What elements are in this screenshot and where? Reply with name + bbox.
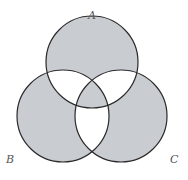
label-b: B [5, 153, 14, 166]
label-a: A [87, 9, 96, 22]
label-c: C [170, 153, 179, 166]
venn-diagram: A B C [0, 0, 188, 180]
